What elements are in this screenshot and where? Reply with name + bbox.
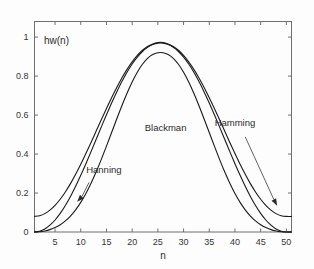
- plot-annotations: BlackmanHanningHamming: [77, 117, 277, 206]
- x-tick-label: 15: [101, 237, 111, 247]
- y-tick-label: 0: [23, 227, 28, 237]
- plot-series-group: [35, 42, 292, 232]
- x-tick-label: 25: [153, 237, 163, 247]
- y-tick-label: 0.6: [16, 110, 29, 120]
- x-tick-label: 35: [204, 237, 214, 247]
- plot-axes: 5101520253035404550 00.20.40.60.81: [16, 22, 292, 248]
- curve-blackman: [35, 53, 292, 233]
- curve-hanning: [35, 43, 292, 232]
- x-axis-tick-labels: 5101520253035404550: [53, 237, 292, 247]
- annotation-arrowhead: [272, 198, 278, 205]
- x-tick-label: 10: [76, 237, 86, 247]
- x-tick-label: 20: [127, 237, 137, 247]
- y-tick-label: 1: [23, 32, 28, 42]
- y-axis-ticks: [35, 37, 292, 232]
- x-tick-label: 5: [53, 237, 58, 247]
- annotation-label-hanning: Hanning: [86, 164, 121, 175]
- x-tick-label: 45: [256, 237, 266, 247]
- figure-container: 5101520253035404550 00.20.40.60.81 Black…: [0, 0, 314, 269]
- x-axis-title: n: [160, 250, 166, 261]
- annotation-arrowhead: [77, 195, 84, 202]
- annotation-label-hamming: Hamming: [215, 117, 256, 128]
- window-functions-plot: 5101520253035404550 00.20.40.60.81 Black…: [0, 0, 314, 269]
- y-axis-tick-labels: 00.20.40.60.81: [16, 32, 29, 237]
- y-tick-label: 0.8: [16, 71, 29, 81]
- annotation-label-blackman: Blackman: [145, 122, 187, 133]
- x-tick-label: 50: [281, 237, 291, 247]
- y-tick-label: 0.4: [16, 149, 29, 159]
- plot-corner-label: hw(n): [44, 35, 69, 46]
- x-tick-label: 40: [230, 237, 240, 247]
- y-tick-label: 0.2: [16, 188, 29, 198]
- x-tick-label: 30: [179, 237, 189, 247]
